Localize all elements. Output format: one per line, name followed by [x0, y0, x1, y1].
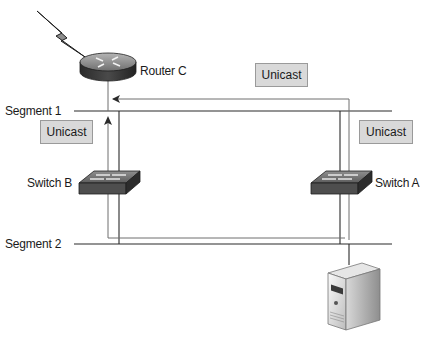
switch-b-icon	[79, 171, 140, 194]
unicast-path-lower	[108, 123, 345, 238]
switch-a-icon	[311, 171, 372, 194]
unicast-frame-top: Unicast	[255, 63, 308, 87]
segment-1-label: Segment 1	[5, 104, 61, 118]
lightning-bolt-icon	[37, 11, 85, 57]
server-icon	[328, 263, 380, 330]
switch-a-label: Switch A	[375, 176, 419, 190]
unicast-path-upper	[113, 99, 349, 240]
unicast-frame-right: Unicast	[359, 120, 413, 144]
unicast-frame-left: Unicast	[40, 120, 93, 144]
switch-b-label: Switch B	[27, 176, 72, 190]
segment-2-label: Segment 2	[5, 237, 61, 251]
network-diagram	[0, 0, 431, 344]
router-c-label: Router C	[140, 64, 186, 78]
router-icon	[80, 53, 136, 81]
